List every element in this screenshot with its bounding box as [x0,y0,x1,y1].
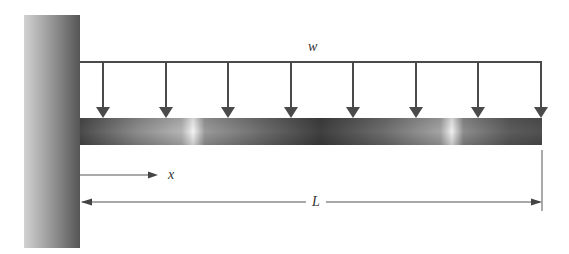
down-arrow-icon [284,62,298,118]
fixed-wall [24,15,80,248]
down-arrow-icon [96,62,110,118]
length-label: L [306,195,326,209]
x-axis-arrow [80,172,158,179]
down-arrow-icon [346,62,360,118]
down-arrow-icon [471,62,485,118]
down-arrow-icon [159,62,173,118]
beam [80,118,542,145]
load-label: w [306,40,319,54]
load-arrows [96,62,548,118]
position-label: x [167,168,175,182]
cantilever-diagram [0,0,569,254]
down-arrow-icon [409,62,423,118]
down-arrow-icon [221,62,235,118]
down-arrow-icon [534,62,548,118]
